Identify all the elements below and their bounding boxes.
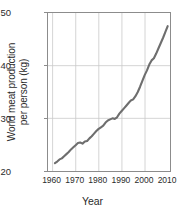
y-tickmark-50: [44, 12, 47, 13]
chart-figure: World meat production per person (kg) 50…: [0, 0, 185, 215]
y-axis-title-line1: World meat production: [6, 43, 18, 141]
plot-area: [47, 12, 171, 172]
x-tick-label-2010: 2010: [152, 176, 182, 185]
y-tickmark-20: [44, 171, 47, 172]
x-axis-title: Year: [0, 195, 185, 207]
y-tick-label-40: 40: [0, 61, 11, 71]
y-tickmark-30: [44, 118, 47, 119]
y-axis-title: World meat production per person (kg): [5, 17, 31, 167]
y-tickmark-40: [44, 65, 47, 66]
plot-canvas: [48, 13, 170, 171]
y-tick-label-30: 30: [0, 114, 11, 124]
y-tick-label-50: 50: [0, 8, 11, 18]
data-line-world-meat-production: [55, 26, 168, 163]
y-axis-title-line2: per person (kg): [18, 59, 30, 125]
gridlines: [48, 13, 170, 171]
y-tick-label-20: 20: [0, 167, 11, 177]
